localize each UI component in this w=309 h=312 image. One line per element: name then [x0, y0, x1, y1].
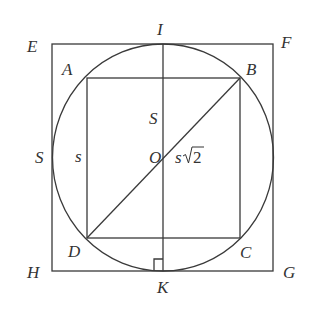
- label-o: O: [149, 148, 161, 167]
- geometry-diagram: E F G H A B C D I K O S s S s 2: [0, 0, 309, 312]
- label-diag-s: s: [175, 148, 182, 167]
- label-s-inner-side: s: [75, 147, 82, 166]
- label-d: D: [67, 242, 81, 261]
- label-h: H: [26, 263, 41, 282]
- label-k: K: [156, 278, 170, 297]
- label-f: F: [280, 33, 292, 52]
- label-s-radius: S: [149, 109, 158, 128]
- label-s-outer: S: [35, 148, 44, 167]
- label-e: E: [26, 37, 38, 56]
- label-diag-root: 2: [193, 148, 202, 167]
- label-a: A: [61, 60, 73, 79]
- label-i: I: [156, 20, 164, 39]
- label-c: C: [240, 243, 252, 262]
- label-g: G: [283, 263, 295, 282]
- label-b: B: [246, 60, 257, 79]
- right-angle-mark: [154, 259, 163, 271]
